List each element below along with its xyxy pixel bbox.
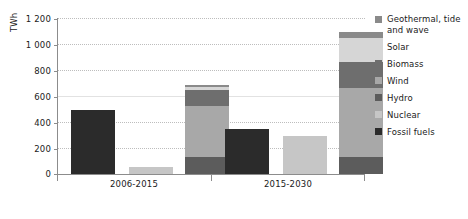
bar-segment-fossil-fuels [71,110,115,174]
legend-label: Nuclear [387,110,420,121]
bar-segment-nuclear [129,167,173,174]
bar-segment-fossil-fuels [225,129,269,174]
y-tick-1200 [54,19,58,20]
y-tick-label-400: 400 [34,118,51,128]
legend-label: Fossil fuels [387,127,435,138]
legend-item-biomass[interactable]: Biomass [375,59,467,70]
chart-figure: TWh 02004006008001 0001 200 2006-2015201… [0,0,468,219]
renewables-bar[interactable] [185,85,229,174]
legend-item-fossil-fuels[interactable]: Fossil fuels [375,127,467,138]
bar-segment-hydro [339,157,383,174]
legend-item-geothermal-tide-and-wave[interactable]: Geothermal, tide and wave [375,14,467,35]
y-axis-title: TWh [9,0,23,32]
bar-segment-wind [185,106,229,157]
legend-swatch-icon [375,77,382,84]
bar-segment-solar [185,87,229,90]
legend-swatch-icon [375,16,382,23]
y-tick-label-1000: 1 000 [26,40,51,50]
y-tick-800 [54,71,58,72]
legend-swatch-icon [375,111,382,118]
nuclear-bar[interactable] [129,167,173,174]
y-tick-label-1200: 1 200 [26,14,51,24]
nuclear-bar[interactable] [283,136,327,174]
legend-swatch-icon [375,43,382,50]
y-tick-400 [54,123,58,124]
y-tick-label-600: 600 [34,92,51,102]
y-tick-600 [54,97,58,98]
gridline-1000: 1 000 [58,44,365,45]
legend-label: Wind [387,76,409,87]
chart-legend: Geothermal, tide and waveSolarBiomassWin… [375,14,467,144]
y-tick-label-0: 0 [45,169,51,179]
gridline-1200: 1 200 [58,18,365,19]
fossil-fuels-bar[interactable] [225,129,269,174]
legend-label: Solar [387,42,409,53]
y-tick-label-200: 200 [34,144,51,154]
x-tick-label-2006-2015: 2006-2015 [57,179,211,189]
legend-label: Geothermal, tide and wave [387,14,467,35]
y-tick-label-800: 800 [34,66,51,76]
y-tick-200 [54,149,58,150]
gridline-800: 800 [58,70,365,71]
legend-item-hydro[interactable]: Hydro [375,93,467,104]
x-tick-label-2015-2030: 2015-2030 [211,179,365,189]
legend-label: Hydro [387,93,413,104]
bar-segment-nuclear [283,136,327,174]
legend-item-nuclear[interactable]: Nuclear [375,110,467,121]
legend-label: Biomass [387,59,423,70]
bar-segment-geothermal-tide-and-wave [185,85,229,87]
legend-swatch-icon [375,128,382,135]
bar-segment-biomass [185,90,229,106]
legend-swatch-icon [375,60,382,67]
fossil-fuels-bar[interactable] [71,110,115,174]
legend-item-wind[interactable]: Wind [375,76,467,87]
plot-area: 02004006008001 0001 200 [57,18,365,175]
legend-swatch-icon [375,94,382,101]
y-tick-1000 [54,45,58,46]
bar-segment-hydro [185,157,229,174]
legend-item-solar[interactable]: Solar [375,42,467,53]
